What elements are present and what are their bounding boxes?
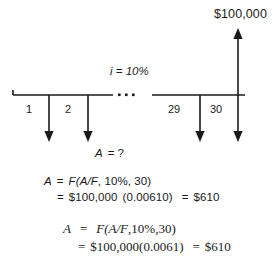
- equation-2-factor-notation: F(A/F: [96, 221, 128, 236]
- equation-1-equals: =: [57, 175, 64, 187]
- inflow-amount-label: $100,000: [214, 8, 267, 21]
- period-label-1: 1: [26, 104, 32, 115]
- ellipsis-dot-2: [125, 94, 128, 97]
- outflow-arrowhead-30: [233, 131, 242, 142]
- equation-1-factor-value: (0.00610): [123, 191, 173, 203]
- equation-1-factor-notation: F(A/F: [69, 175, 98, 187]
- equation-1-periods: , 30): [128, 175, 152, 187]
- equation-2-factor-value: (0.0061): [139, 239, 183, 254]
- equation-2-rate: ,10%: [128, 221, 155, 236]
- ellipsis-dot-1: [118, 94, 121, 97]
- interest-rate-label: i = 10%: [110, 66, 149, 78]
- unknown-annuity-symbol: A: [95, 147, 103, 159]
- cash-flow-diagram-figure: $100,000 i = 10% 1 2 29 30 A= ? A=F(A/F,…: [0, 0, 274, 264]
- equation-2-equals: =: [80, 221, 87, 236]
- period-label-29: 29: [168, 104, 180, 115]
- equation-1-result-equals: =: [182, 191, 189, 203]
- period-label-30: 30: [210, 104, 222, 115]
- equation-2-result: $610: [205, 239, 231, 254]
- equation-1-line-2: =$100,000(0.00610)=$610: [57, 192, 220, 204]
- equation-1-lhs: A: [44, 175, 52, 187]
- unknown-annuity-label: A= ?: [95, 148, 124, 160]
- equation-2-principal: $100,000: [90, 239, 139, 254]
- equation-2-result-equals: =: [193, 239, 200, 254]
- equation-2-lhs: A: [63, 221, 71, 236]
- outflow-arrowhead-1: [44, 131, 53, 142]
- equation-1-line-1: A=F(A/F, 10%, 30): [44, 176, 151, 188]
- equation-1-principal: $100,000: [69, 191, 118, 203]
- outflow-arrowhead-2: [83, 131, 92, 142]
- equation-2-periods: ,30): [155, 221, 176, 236]
- ellipsis-dot-3: [132, 94, 135, 97]
- equation-2-line-2: =$100,000(0.0061)=$610: [78, 240, 231, 253]
- inflow-arrowhead: [233, 28, 242, 39]
- equation-1-result: $610: [194, 191, 220, 203]
- unknown-annuity-value: = ?: [108, 147, 124, 159]
- equation-2-line2-equals: =: [78, 239, 85, 254]
- outflow-arrowhead-29: [195, 131, 204, 142]
- period-label-2: 2: [65, 104, 71, 115]
- equation-1-rate: , 10%: [98, 175, 128, 187]
- equation-1-line2-equals: =: [57, 191, 64, 203]
- equation-2-line-1: A=F(A/F,10%,30): [63, 222, 176, 235]
